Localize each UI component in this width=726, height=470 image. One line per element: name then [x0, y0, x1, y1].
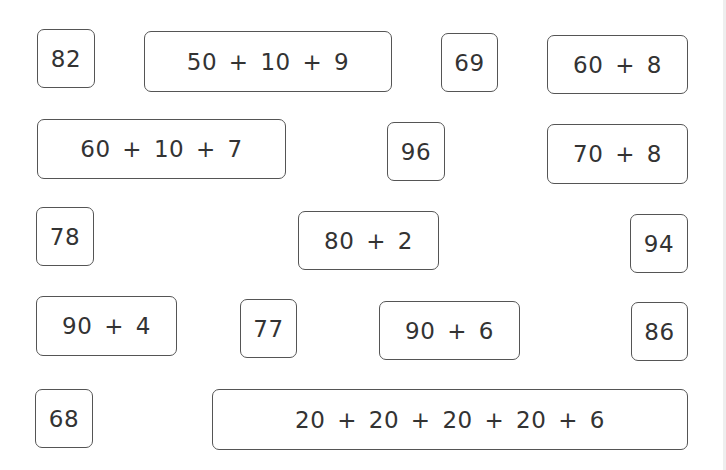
number-card-86[interactable]: 86: [631, 302, 688, 361]
number-card-96[interactable]: 96: [387, 122, 445, 181]
number-matching-worksheet: 82 50 + 10 + 9 69 60 + 8 60 + 10 + 7 96 …: [0, 0, 726, 470]
expression-card-60-10-7[interactable]: 60 + 10 + 7: [37, 119, 286, 179]
number-card-69[interactable]: 69: [441, 33, 498, 92]
number-card-68[interactable]: 68: [35, 389, 93, 448]
number-card-94[interactable]: 94: [630, 214, 688, 273]
expression-card-60-8[interactable]: 60 + 8: [547, 35, 688, 94]
number-card-77[interactable]: 77: [240, 299, 297, 358]
expression-card-70-8[interactable]: 70 + 8: [547, 124, 688, 184]
expression-card-90-4[interactable]: 90 + 4: [36, 296, 177, 356]
number-card-82[interactable]: 82: [37, 29, 95, 88]
number-card-78[interactable]: 78: [36, 207, 94, 266]
expression-card-50-10-9[interactable]: 50 + 10 + 9: [144, 31, 392, 92]
expression-card-20-20-20-20-6[interactable]: 20 + 20 + 20 + 20 + 6: [212, 389, 688, 450]
expression-card-80-2[interactable]: 80 + 2: [298, 211, 439, 270]
expression-card-90-6[interactable]: 90 + 6: [379, 301, 520, 360]
